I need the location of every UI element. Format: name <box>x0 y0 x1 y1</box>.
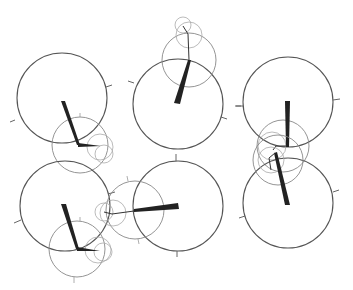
clock-top-left <box>10 53 113 173</box>
sub-circle <box>95 145 113 163</box>
sub-circle <box>175 17 191 33</box>
clock-middle-right <box>239 135 339 248</box>
major-circle <box>17 53 107 143</box>
clock-bottom-middle <box>95 154 223 257</box>
tick-mark <box>221 117 227 119</box>
minute-hand <box>104 211 134 214</box>
tick-mark <box>10 120 15 122</box>
tick-mark <box>333 99 340 100</box>
hour-hand <box>274 152 290 205</box>
tick-mark <box>138 239 139 244</box>
hour-hand <box>285 101 290 147</box>
hour-hand <box>134 203 179 212</box>
tick-mark <box>333 190 339 192</box>
clock-bottom-left <box>14 161 115 283</box>
tick-mark <box>106 85 112 87</box>
hour-hand <box>174 60 191 104</box>
epicycle-diagram <box>0 0 353 290</box>
tick-mark <box>239 216 245 218</box>
minute-hand <box>78 143 101 147</box>
hour-hand <box>61 204 79 249</box>
major-circle <box>133 59 223 149</box>
clock-top-right <box>236 57 340 172</box>
clock-top-middle <box>128 17 241 149</box>
tick-mark <box>14 220 21 223</box>
tick-mark <box>127 176 128 181</box>
minute-hand <box>77 247 100 251</box>
tick-mark <box>128 81 134 83</box>
hour-hand <box>61 101 80 145</box>
